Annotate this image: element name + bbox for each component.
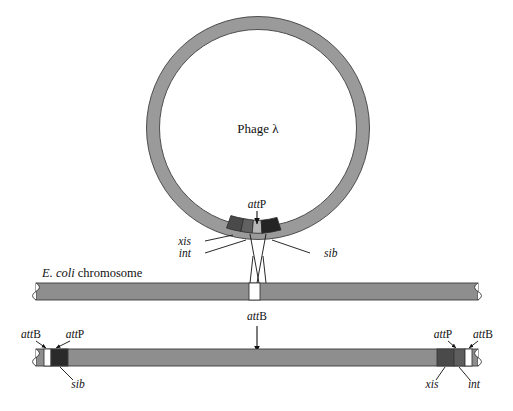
- attp-label-circle-italic: att: [248, 198, 261, 210]
- integrated-segment-xis: [437, 349, 454, 366]
- arrow-attB-left: [36, 341, 46, 348]
- label-attP-left-italic: att: [66, 328, 79, 340]
- arrow-attP-left: [56, 341, 70, 348]
- attb-label-chromosome-rest: B: [259, 310, 267, 322]
- integrated-segment-int: [454, 349, 465, 366]
- crossover-lines: [250, 234, 266, 283]
- leader-sib: [272, 240, 310, 253]
- integrated-bar: [36, 349, 478, 366]
- label-attP-right-italic: att: [434, 328, 447, 340]
- chromosome-label-rest: chromosome: [75, 266, 143, 280]
- phage-title: Phage λ: [237, 121, 279, 136]
- label-attB-right-rest: B: [485, 328, 493, 340]
- label-xis-circle: xis: [177, 235, 191, 247]
- arrow-attB-right: [469, 341, 478, 348]
- label-sib-circle: sib: [324, 247, 338, 259]
- label-attB-left-italic: att: [21, 328, 34, 340]
- label-attP-left: attP: [66, 328, 85, 340]
- attp-label-circle-rest: P: [260, 198, 266, 210]
- label-attP-left-rest: P: [78, 328, 84, 340]
- leader-xis: [205, 235, 233, 241]
- label-attB-left: attB: [21, 328, 41, 340]
- leader-int: [205, 240, 246, 253]
- crossover-line-right: [257, 234, 266, 283]
- lambda-recombination-figure: Phage λ attP xis int sib: [0, 0, 513, 411]
- arrow-attP-right: [448, 341, 456, 348]
- integrated-segment-attB-right: [465, 349, 472, 366]
- label-attP-right-rest: P: [446, 328, 452, 340]
- integrated-segment-attB-left: [44, 349, 51, 366]
- attb-label-chromosome: attB: [247, 310, 267, 322]
- chromosome-label-italic: E. coli: [41, 266, 75, 280]
- label-int-circle: int: [179, 247, 192, 259]
- label-attP-right: attP: [434, 328, 453, 340]
- attp-label-circle: attP: [248, 198, 267, 210]
- label-attB-left-rest: B: [33, 328, 41, 340]
- attb-label-chromosome-italic: att: [247, 310, 260, 322]
- label-int-integrated: int: [468, 378, 481, 390]
- integrated-bar-group: [33, 349, 482, 366]
- label-attB-right: attB: [473, 328, 493, 340]
- integrated-segment-sib: [51, 349, 68, 366]
- label-xis-integrated: xis: [425, 378, 439, 390]
- figure-canvas: Phage λ attP xis int sib: [0, 0, 513, 411]
- chromosome-bar-group: [33, 283, 482, 300]
- label-sib-integrated: sib: [71, 378, 85, 390]
- chromosome-attB-site: [249, 283, 260, 300]
- crossover-line-left-lower: [250, 256, 253, 283]
- segment-sib: [261, 217, 281, 233]
- crossover-line-left: [250, 234, 259, 283]
- chromosome-label: E. coli chromosome: [41, 266, 143, 280]
- label-attB-right-italic: att: [473, 328, 486, 340]
- crossover-line-right-lower: [263, 256, 266, 283]
